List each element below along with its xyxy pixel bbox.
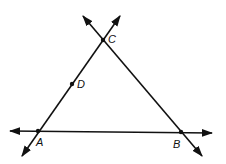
label-c: C [108,34,116,45]
point-b [179,130,183,134]
label-d: D [77,79,85,90]
label-a: A [36,137,43,148]
line-ac [22,16,120,156]
point-a [36,129,40,133]
geometry-diagram: C D A B [0,0,226,164]
label-b: B [173,139,180,150]
point-d [70,82,74,86]
line-bc [83,16,202,156]
diagram-svg [0,0,226,164]
point-c [101,38,105,42]
